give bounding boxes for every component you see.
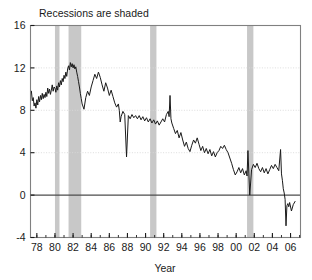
interest-rate-line-chart: 1612840-4 788082848688909294969800020406…: [0, 0, 312, 280]
recession-band: [69, 26, 82, 238]
x-tick-label: 82: [67, 241, 79, 253]
recession-band: [247, 26, 253, 238]
x-axis-tick-labels: 788082848688909294969800020406: [31, 241, 297, 253]
y-tick-label: 12: [14, 62, 26, 74]
x-tick-label: 02: [248, 241, 260, 253]
chart-title: Recessions are shaded: [39, 7, 149, 19]
recession-band: [150, 26, 156, 238]
y-tick-label: 0: [20, 189, 26, 201]
x-tick-label: 84: [85, 241, 97, 253]
x-tick-label: 92: [158, 241, 170, 253]
y-tick-label: 16: [14, 19, 26, 31]
y-tick-label: 8: [20, 104, 26, 116]
x-tick-label: 90: [140, 241, 152, 253]
x-tick-label: 88: [122, 241, 134, 253]
x-axis-title: Year: [154, 262, 176, 274]
x-tick-label: 06: [285, 241, 297, 253]
x-tick-label: 04: [267, 241, 279, 253]
x-tick-label: 94: [176, 241, 188, 253]
chart-figure: 1612840-4 788082848688909294969800020406…: [0, 0, 312, 280]
x-tick-label: 00: [230, 241, 242, 253]
x-tick-label: 78: [31, 241, 43, 253]
x-tick-label: 96: [194, 241, 206, 253]
x-tick-label: 80: [49, 241, 61, 253]
x-tick-label: 86: [103, 241, 115, 253]
recession-band: [55, 26, 60, 238]
y-tick-label: 4: [20, 146, 26, 158]
y-tick-label: -4: [16, 231, 25, 243]
x-tick-label: 98: [212, 241, 224, 253]
